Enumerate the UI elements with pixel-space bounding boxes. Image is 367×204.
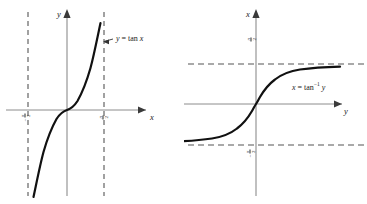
tangent-right-asymptote-denominator: 2: [104, 116, 109, 120]
tangent-right-asymptote-label: π2: [98, 107, 109, 129]
tangent-graph-svg: [0, 0, 184, 204]
arctangent-graph-panel: x = tan−1 y y x π2 −π2: [184, 0, 367, 204]
arctangent-graph-svg: [184, 0, 367, 204]
x-axis-arrowhead: [138, 107, 146, 114]
arctangent-lower-asymptote-minus: −: [248, 154, 253, 157]
y-axis-group: [63, 9, 70, 196]
arctangent-vertical-axis-label: x: [246, 10, 250, 19]
arctangent-lower-asymptote-numerator: π: [244, 150, 249, 154]
arctangent-curve-label-fn: tan: [304, 83, 314, 92]
tangent-left-asymptote-denominator: 2: [26, 114, 31, 118]
arctangent-upper-asymptote-numerator: π: [245, 38, 250, 42]
tangent-graph-panel: y = tan x x y −π2 π2: [0, 0, 184, 204]
arctangent-lower-asymptote-denominator: 2: [251, 150, 256, 154]
tangent-left-asymptote-label: −π2: [20, 107, 31, 129]
arctangent-horizontal-axis-label: y: [344, 107, 348, 116]
arctangent-lower-asymptote-label: −π2: [245, 142, 256, 166]
arctangent-upper-asymptote-label: π2: [246, 29, 257, 51]
arctangent-curve-label-arg: y: [322, 83, 326, 92]
tangent-y-axis-label: y: [57, 10, 61, 19]
tangent-curve-label: y = tan x: [116, 35, 143, 43]
arctangent-curve-label: x = tan−1 y: [292, 82, 325, 92]
vertical-axis-arrowhead: [252, 9, 259, 18]
tangent-right-asymptote-numerator: π: [97, 116, 102, 120]
figure-container: y = tan x x y −π2 π2: [0, 0, 367, 204]
tangent-left-asymptote-numerator: π: [19, 114, 24, 118]
arctangent-curve-label-eq: =: [296, 83, 305, 92]
horizontal-axis-arrowhead: [334, 101, 342, 108]
tangent-curve-label-arg: x: [140, 34, 144, 43]
tangent-curve-label-fn: tan: [128, 34, 138, 43]
y-axis-arrowhead: [63, 9, 70, 18]
tangent-x-axis-label: x: [150, 113, 154, 122]
tangent-curve-label-eq: =: [120, 34, 129, 43]
horizontal-axis-group: [184, 101, 342, 108]
arctangent-upper-asymptote-denominator: 2: [252, 38, 257, 42]
tangent-left-asymptote-minus: −: [23, 118, 28, 121]
arctangent-curve-label-exponent: −1: [314, 81, 320, 87]
